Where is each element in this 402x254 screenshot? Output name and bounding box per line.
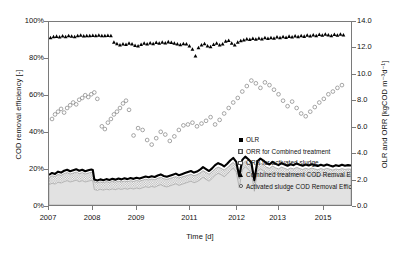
filled-square-icon — [235, 138, 246, 142]
data-point-activated-sludge — [154, 136, 158, 140]
data-point-combined — [142, 41, 146, 45]
data-point-activated-sludge — [121, 102, 125, 106]
data-point-activated-sludge — [53, 113, 57, 117]
y-left-tickmark — [44, 169, 48, 170]
data-point-activated-sludge — [74, 103, 78, 107]
data-point-activated-sludge — [245, 84, 249, 88]
data-point-activated-sludge — [103, 127, 107, 131]
data-point-combined — [281, 35, 285, 39]
data-point-combined — [157, 41, 161, 45]
data-point-combined — [61, 34, 65, 38]
x-tick-2015: 2015 — [303, 213, 343, 222]
plot-area: OLRORR for Combined treatmentORR for act… — [48, 21, 352, 206]
data-point-activated-sludge — [195, 124, 199, 128]
data-point-combined — [151, 42, 155, 46]
hatched-square-icon — [235, 149, 246, 154]
data-point-activated-sludge — [263, 81, 267, 85]
data-point-combined — [145, 42, 149, 46]
data-point-activated-sludge — [163, 133, 167, 137]
x-tickmark — [278, 206, 279, 210]
data-point-combined — [296, 35, 300, 39]
y-left-tick-0: 0% — [4, 201, 44, 210]
x-tickmark — [236, 206, 237, 210]
legend-item-2: ORR for activated sludge — [235, 157, 352, 169]
data-point-activated-sludge — [340, 83, 344, 87]
data-point-activated-sludge — [182, 124, 186, 128]
data-point-activated-sludge — [299, 112, 303, 116]
data-point-activated-sludge — [109, 117, 113, 121]
data-point-activated-sludge — [86, 95, 90, 99]
data-point-combined — [106, 33, 110, 37]
data-point-combined — [242, 38, 246, 42]
y-right-tick-6: 6.0 — [357, 122, 397, 131]
data-point-combined — [257, 36, 261, 40]
data-point-combined — [200, 43, 204, 47]
data-point-combined — [139, 42, 143, 46]
data-point-combined — [191, 47, 195, 51]
data-point-activated-sludge — [172, 135, 176, 139]
y-left-tickmark — [44, 58, 48, 59]
y-right-tick-12: 12.0 — [357, 42, 397, 51]
y-right-tickmark — [352, 74, 356, 75]
data-point-activated-sludge — [218, 118, 222, 122]
y-left-tickmark — [44, 21, 48, 22]
data-point-combined — [254, 37, 258, 41]
data-point-combined — [121, 42, 125, 46]
data-point-activated-sludge — [336, 86, 340, 90]
data-point-combined — [91, 33, 95, 37]
data-point-combined — [172, 41, 176, 45]
data-point-activated-sludge — [317, 101, 321, 105]
legend-label: ORR for activated sludge — [246, 159, 319, 166]
x-tick-2011: 2011 — [169, 213, 209, 222]
data-point-combined — [218, 43, 222, 47]
legend-label: Combined treatment COD Remval Efficiency… — [246, 171, 352, 178]
data-point-combined — [314, 34, 318, 38]
data-point-combined — [160, 40, 164, 44]
data-point-combined — [215, 41, 219, 45]
data-point-activated-sludge — [277, 92, 281, 96]
data-point-combined — [109, 34, 113, 38]
y-right-tickmark — [352, 100, 356, 101]
data-point-combined — [58, 35, 62, 39]
legend-item-0: OLR — [235, 134, 352, 146]
data-point-combined — [320, 33, 324, 37]
data-point-combined — [64, 35, 68, 39]
y-left-tick-80: 80% — [4, 53, 44, 62]
data-point-combined — [308, 34, 312, 38]
y-right-tickmark — [352, 127, 356, 128]
data-point-combined — [248, 37, 252, 41]
data-point-combined — [266, 37, 270, 41]
x-tick-2008: 2008 — [72, 213, 112, 222]
data-point-combined — [127, 41, 131, 45]
data-point-combined — [188, 44, 192, 48]
data-point-activated-sludge — [209, 115, 213, 119]
data-point-combined — [239, 39, 243, 43]
data-point-combined — [181, 42, 185, 46]
data-point-activated-sludge — [132, 134, 136, 138]
data-point-combined — [49, 36, 52, 40]
data-point-combined — [175, 42, 179, 46]
x-tickmark — [189, 206, 190, 210]
data-point-activated-sludge — [308, 110, 312, 114]
data-point-activated-sludge — [186, 123, 190, 127]
open-square-icon — [235, 161, 246, 166]
data-point-activated-sludge — [272, 88, 276, 92]
y-left-tickmark — [44, 95, 48, 96]
data-point-activated-sludge — [281, 99, 285, 103]
data-point-activated-sludge — [286, 104, 290, 108]
x-tickmark — [136, 206, 137, 210]
data-point-combined — [275, 35, 279, 39]
data-point-activated-sludge — [68, 103, 72, 107]
data-point-activated-sludge — [95, 97, 99, 101]
data-point-combined — [251, 37, 255, 41]
data-point-activated-sludge — [59, 107, 63, 111]
data-point-combined — [317, 33, 321, 37]
legend-item-3: Combined treatment COD Remval Efficiency… — [235, 169, 352, 181]
y-right-tickmark — [352, 180, 356, 181]
data-point-combined — [323, 32, 327, 36]
data-point-activated-sludge — [331, 90, 335, 94]
x-axis-title: Time [d] — [48, 232, 352, 241]
data-point-combined — [209, 45, 213, 49]
data-point-combined — [169, 41, 173, 45]
data-point-activated-sludge — [127, 108, 131, 112]
